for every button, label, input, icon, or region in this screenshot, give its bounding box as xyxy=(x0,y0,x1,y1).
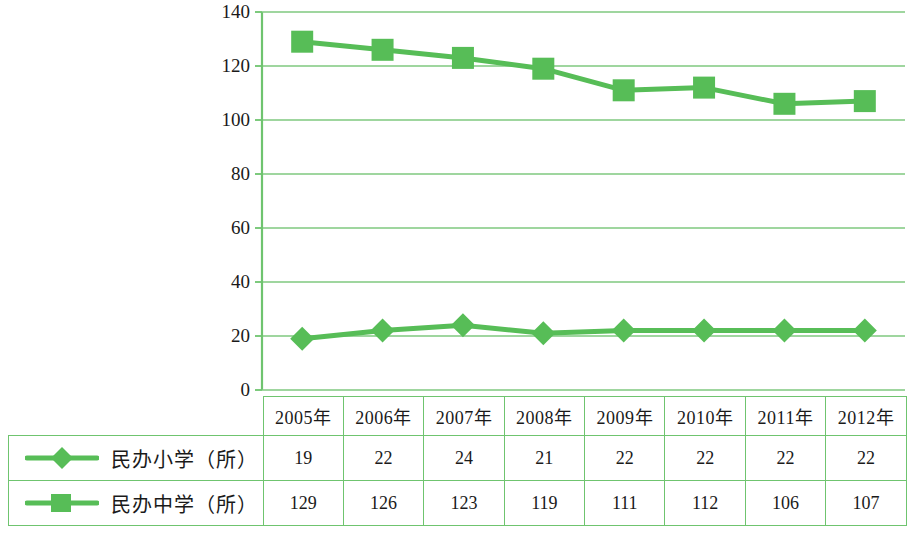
y-tick-label: 20 xyxy=(231,325,250,346)
table-cell: 22 xyxy=(826,436,906,481)
square-marker xyxy=(452,47,474,69)
table-header-row: 2005年2006年2007年2008年2009年2010年2011年2012年 xyxy=(9,397,907,436)
diamond-marker xyxy=(371,319,395,343)
square-marker xyxy=(372,39,394,61)
diamond-line-marker xyxy=(25,447,99,469)
table-cell: 24 xyxy=(424,436,504,481)
table-header-2007: 2007年 xyxy=(424,397,504,436)
table-body: 民办小学（所）1922242122222222民办中学（所）1291261231… xyxy=(9,436,907,526)
series-layer xyxy=(290,31,877,351)
diamond-marker xyxy=(612,319,636,343)
y-tick-label: 140 xyxy=(222,1,251,22)
table-header-2008: 2008年 xyxy=(504,397,584,436)
table-cell: 119 xyxy=(504,481,584,526)
diamond-marker xyxy=(692,319,716,343)
diamond-marker xyxy=(531,321,555,345)
table-cell: 107 xyxy=(826,481,906,526)
table-header-2006: 2006年 xyxy=(343,397,423,436)
table-cell: 21 xyxy=(504,436,584,481)
y-tick-label: 80 xyxy=(231,163,250,184)
table-header-2009: 2009年 xyxy=(585,397,665,436)
square-marker xyxy=(532,58,554,80)
chart-canvas: 020406080100120140 xyxy=(0,0,905,400)
line-chart: 020406080100120140 xyxy=(0,0,905,400)
diamond-marker xyxy=(853,319,877,343)
table-header-blank xyxy=(9,397,264,436)
table-header-2005: 2005年 xyxy=(263,397,343,436)
y-tick-label: 100 xyxy=(222,109,251,130)
table-cell: 19 xyxy=(263,436,343,481)
series-1 xyxy=(290,313,877,351)
y-tick-label: 40 xyxy=(231,271,250,292)
table-header-2010: 2010年 xyxy=(665,397,745,436)
square-marker xyxy=(291,31,313,53)
table-cell: 106 xyxy=(745,481,825,526)
table-row: 民办小学（所）1922242122222222 xyxy=(9,436,907,481)
table-cell: 123 xyxy=(424,481,504,526)
table-cell: 126 xyxy=(343,481,423,526)
table-row: 民办中学（所）129126123119111112106107 xyxy=(9,481,907,526)
diamond-marker xyxy=(451,313,475,337)
table-header-2012: 2012年 xyxy=(826,397,906,436)
square-marker xyxy=(693,77,715,99)
square-line-marker xyxy=(25,492,99,514)
table-cell: 22 xyxy=(585,436,665,481)
legend-label: 民办小学（所） xyxy=(111,444,258,473)
diamond-marker xyxy=(772,319,796,343)
legend-cell: 民办小学（所） xyxy=(9,436,264,481)
table-header-2011: 2011年 xyxy=(745,397,825,436)
table-cell: 22 xyxy=(745,436,825,481)
legend-cell: 民办中学（所） xyxy=(9,481,264,526)
table-cell: 112 xyxy=(665,481,745,526)
data-table: 2005年2006年2007年2008年2009年2010年2011年2012年… xyxy=(8,396,907,526)
table-cell: 22 xyxy=(343,436,423,481)
legend-label: 民办中学（所） xyxy=(111,489,258,518)
y-tick-label: 120 xyxy=(222,55,251,76)
series-2 xyxy=(291,31,876,115)
table-cell: 22 xyxy=(665,436,745,481)
square-marker xyxy=(854,90,876,112)
diamond-marker xyxy=(290,327,314,351)
table-cell: 129 xyxy=(263,481,343,526)
table-cell: 111 xyxy=(585,481,665,526)
square-marker xyxy=(773,93,795,115)
square-marker xyxy=(613,79,635,101)
y-tick-label: 60 xyxy=(231,217,250,238)
y-axis-tick-labels: 020406080100120140 xyxy=(222,1,251,400)
